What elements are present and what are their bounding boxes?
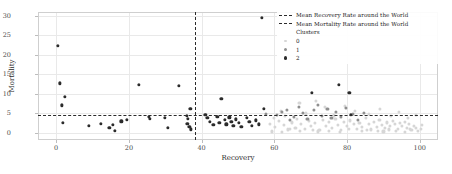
scatter-point-cluster-2 — [248, 120, 251, 123]
gridline-v — [56, 12, 57, 140]
gridline-h — [38, 133, 438, 134]
scatter-point-cluster-2 — [337, 83, 340, 86]
scatter-point-cluster-0 — [327, 129, 330, 132]
legend-item-mean-mortality: Mean Mortality Rate around the World — [279, 20, 447, 29]
scatter-point-cluster-0 — [375, 125, 378, 128]
scatter-point-cluster-2 — [218, 121, 221, 124]
gridline-h — [38, 74, 438, 75]
scatter-point-cluster-1 — [326, 107, 329, 110]
scatter-point-cluster-0 — [277, 119, 280, 122]
scatter-point-cluster-2 — [189, 128, 192, 131]
scatter-point-cluster-0 — [420, 124, 423, 127]
scatter-point-cluster-2 — [260, 16, 263, 19]
scatter-point-cluster-0 — [291, 121, 294, 124]
y-tick-label: 5 — [7, 109, 11, 117]
scatter-point-cluster-0 — [269, 122, 272, 125]
scatter-point-cluster-2 — [120, 120, 123, 123]
scatter-point-cluster-0 — [386, 121, 389, 124]
scatter-point-cluster-0 — [364, 117, 367, 120]
scatter-point-cluster-0 — [334, 118, 337, 121]
scatter-point-cluster-0 — [342, 120, 345, 123]
scatter-point-cluster-2 — [111, 123, 114, 126]
scatter-point-cluster-0 — [361, 126, 364, 129]
scatter-point-cluster-2 — [187, 117, 190, 120]
scatter-point-cluster-1 — [312, 109, 315, 112]
scatter-point-cluster-0 — [273, 125, 276, 128]
gridline-h — [38, 94, 438, 95]
scatter-point-cluster-0 — [378, 108, 381, 111]
scatter-point-cluster-2 — [257, 123, 260, 126]
scatter-point-cluster-0 — [300, 123, 303, 126]
scatter-point-cluster-0 — [347, 128, 350, 131]
y-tick-label: 30 — [3, 12, 11, 20]
legend-item-cluster-1: 1 — [279, 45, 447, 54]
scatter-point-cluster-0 — [310, 124, 313, 127]
scatter-point-cluster-1 — [297, 105, 300, 108]
legend-marker-wrap — [279, 40, 292, 43]
scatter-point-cluster-0 — [289, 128, 292, 131]
mean-recovery-reference-line — [195, 12, 196, 140]
scatter-point-cluster-0 — [367, 123, 370, 126]
scatter-point-cluster-2 — [262, 107, 265, 110]
legend-label-mean-recovery: Mean Recovery Rate around the World — [296, 12, 408, 18]
scatter-point-cluster-0 — [387, 128, 390, 131]
scatter-point-cluster-0 — [337, 123, 340, 126]
y-tick-label: 0 — [7, 129, 11, 137]
scatter-point-cluster-0 — [314, 122, 317, 125]
scatter-point-cluster-0 — [407, 116, 410, 119]
scatter-point-cluster-2 — [189, 108, 192, 111]
scatter-point-cluster-2 — [223, 118, 226, 121]
scatter-point-cluster-2 — [59, 82, 62, 85]
scatter-point-cluster-0 — [408, 123, 411, 126]
scatter-point-cluster-2 — [208, 120, 211, 123]
scatter-point-cluster-0 — [294, 126, 297, 129]
gridline-v — [274, 12, 275, 140]
scatter-point-cluster-0 — [401, 125, 404, 128]
legend-title-clusters: Clusters — [279, 28, 447, 37]
x-tick-label: 0 — [54, 144, 58, 152]
scatter-point-cluster-0 — [315, 99, 318, 102]
scatter-point-cluster-2 — [237, 121, 240, 124]
gridline-v — [129, 12, 130, 140]
gridline-v — [202, 12, 203, 140]
x-axis-label: Recovery — [222, 154, 255, 162]
scatter-point-cluster-0 — [395, 129, 398, 132]
scatter-point-cluster-2 — [163, 116, 166, 119]
y-tick-label: 20 — [3, 51, 11, 59]
scatter-point-cluster-2 — [148, 117, 151, 120]
legend-label-cluster-0: 0 — [296, 38, 300, 44]
scatter-point-cluster-2 — [60, 104, 63, 107]
scatter-point-cluster-2 — [108, 126, 111, 129]
scatter-point-cluster-2 — [212, 123, 215, 126]
scatter-point-cluster-0 — [352, 122, 355, 125]
mean-mortality-reference-line — [38, 115, 438, 116]
legend-clusters-title: Clusters — [296, 29, 320, 35]
legend-label-cluster-1: 1 — [296, 47, 300, 53]
x-tick-mark — [274, 140, 275, 143]
scatter-point-cluster-1 — [330, 116, 333, 119]
legend-cluster-items: 012 — [279, 37, 447, 63]
x-tick-label: 100 — [414, 144, 426, 152]
scatter-point-cluster-2 — [225, 123, 228, 126]
y-tick-label: 25 — [3, 31, 11, 39]
legend-item-mean-recovery: Mean Recovery Rate around the World — [279, 11, 447, 20]
x-tick-mark — [420, 140, 421, 143]
scatter-point-cluster-2 — [228, 116, 231, 119]
dashed-line-icon — [279, 23, 292, 24]
scatter-point-cluster-0 — [298, 101, 301, 104]
axis-spine-bottom — [38, 139, 438, 140]
scatter-point-cluster-0 — [311, 129, 314, 132]
legend-marker-wrap — [279, 48, 292, 51]
scatter-point-cluster-2 — [63, 95, 66, 98]
x-tick-label: 60 — [270, 144, 278, 152]
x-tick-mark — [202, 140, 203, 143]
scatter-point-cluster-2 — [240, 125, 243, 128]
scatter-point-cluster-0 — [327, 121, 330, 124]
scatter-point-cluster-2 — [255, 119, 258, 122]
y-tick-label: 10 — [3, 90, 11, 98]
scatter-point-cluster-2 — [177, 84, 180, 87]
scatter-point-cluster-2 — [245, 116, 248, 119]
x-tick-label: 80 — [343, 144, 351, 152]
scatter-point-cluster-0 — [349, 119, 352, 122]
scatter-point-cluster-2 — [167, 126, 170, 129]
